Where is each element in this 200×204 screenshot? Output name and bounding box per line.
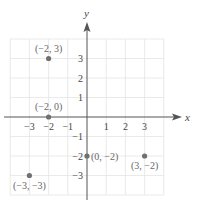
point-label: (−3, −3) [13,180,46,192]
point-label: (3, −2) [131,160,158,172]
x-axis-label: x [184,111,190,123]
x-tick-label: 1 [104,121,109,132]
data-point [46,114,51,119]
x-tick-label: −3 [24,121,35,132]
y-tick-label: −2 [72,151,83,162]
y-tick-label: −1 [72,131,83,142]
y-axis-label: y [83,7,89,19]
x-tick-label: −2 [43,121,54,132]
point-label: (−2, 0) [35,101,62,113]
y-tick-label: 1 [78,92,83,103]
point-label: (0, −2) [91,151,118,163]
data-point [27,173,32,178]
y-tick-label: 2 [78,73,83,84]
coordinate-plane: x y −3−2−1123321−1−2−3 (−2, 3)(−2, 0)(0,… [0,0,200,204]
point-label: (−2, 3) [35,43,62,55]
data-point [84,153,89,158]
x-tick-label: 2 [123,121,128,132]
data-point [46,56,51,61]
data-point [142,153,147,158]
y-tick-label: −3 [72,170,83,181]
x-tick-label: 3 [142,121,147,132]
y-tick-label: 3 [78,53,83,64]
